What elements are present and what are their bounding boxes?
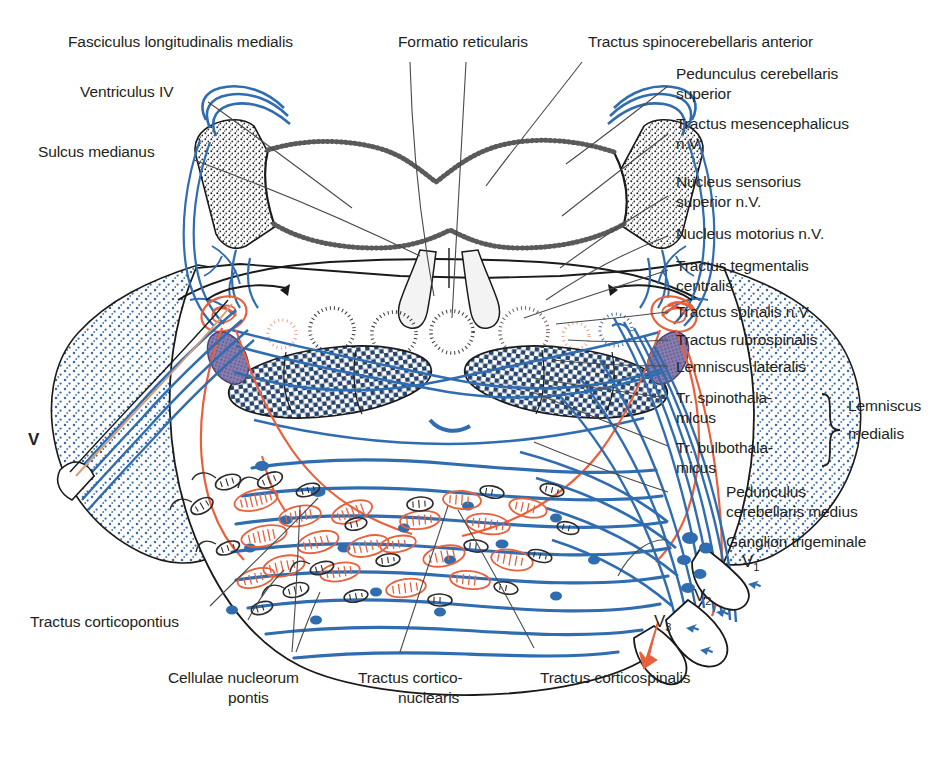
label-tractus-mesencephalicus-nv-l2: n.V. bbox=[676, 134, 702, 153]
v1-base: V bbox=[742, 552, 753, 571]
label-cellulae-nucleorum-pontis-l1: Cellulae nucleorum bbox=[168, 668, 299, 687]
label-tractus-tegmentalis-centralis-l1: Tractus tegmentalis bbox=[676, 256, 809, 275]
label-tractus-mesencephalicus-nv-l1: Tractus mesencephalicus bbox=[676, 114, 849, 133]
label-tr-spinothalamicus-l1: Tr. spinothala- bbox=[676, 388, 772, 407]
label-formatio-reticularis: Formatio reticularis bbox=[398, 32, 528, 51]
label-lemniscus-medialis-l2: medialis bbox=[848, 424, 904, 443]
label-pedunculus-cerebellaris-superior-l1: Pedunculus cerebellaris bbox=[676, 64, 838, 83]
label-tr-bulbothalamicus-l2: micus bbox=[676, 458, 716, 477]
label-v2: V2 bbox=[694, 586, 711, 607]
label-tractus-corticonuclearis-l2: nuclearis bbox=[398, 688, 459, 707]
label-tractus-corticonuclearis-l1: Tractus cortico- bbox=[358, 668, 463, 687]
label-pedunculus-cerebellaris-medius-l2: cerebellaris medius bbox=[726, 502, 858, 521]
label-tr-spinothalamicus-l2: mlcus bbox=[676, 408, 716, 427]
label-tractus-corticospinalis: Tractus corticospinalis bbox=[540, 668, 690, 687]
label-tractus-rubrospinalis: Tractus rubrospinalis bbox=[676, 330, 817, 349]
v3-base: V bbox=[654, 612, 665, 631]
label-tractus-spinalis-nv: Tractus spinalis n.V. bbox=[676, 302, 811, 321]
label-ventriculus-iv: Ventriculus IV bbox=[80, 82, 173, 101]
label-fasciculus-longitudinalis-medialis: Fasciculus longitudinalis medialis bbox=[68, 32, 293, 51]
label-tr-bulbothalamicus-l1: Tr. bulbothala- bbox=[676, 438, 773, 457]
v2-sub: 2 bbox=[705, 595, 711, 607]
label-tractus-corticopontius: Tractus corticopontius bbox=[30, 612, 179, 631]
label-ganglion-trigeminale: Ganglion trigeminale bbox=[726, 532, 866, 551]
label-tractus-spinocerebellaris-anterior: Tractus spinocerebellaris anterior bbox=[588, 32, 813, 51]
label-lemniscus-lateralis: Lemniscus lateralis bbox=[676, 357, 806, 376]
label-cellulae-nucleorum-pontis-l2: pontis bbox=[228, 688, 269, 707]
label-pedunculus-cerebellaris-superior-l2: superior bbox=[676, 84, 731, 103]
label-lemniscus-medialis-l1: Lemniscus bbox=[848, 396, 921, 415]
label-tractus-tegmentalis-centralis-l2: centralis bbox=[676, 276, 733, 295]
label-nucleus-sensorius-superior-nv-l1: Nucleus sensorius bbox=[676, 172, 801, 191]
label-v-root: V bbox=[28, 430, 39, 450]
label-v1: V1 bbox=[742, 552, 759, 573]
label-pedunculus-cerebellaris-medius-l1: Pedunculus bbox=[726, 482, 806, 501]
v1-sub: 1 bbox=[753, 561, 759, 573]
pons-cross-section-figure: Fasciculus longitudinalis medialis Forma… bbox=[0, 0, 949, 759]
label-nucleus-sensorius-superior-nv-l2: superior n.V. bbox=[676, 192, 761, 211]
v3-sub: 3 bbox=[665, 621, 671, 633]
label-v3: V3 bbox=[654, 612, 671, 633]
label-sulcus-medianus: Sulcus medianus bbox=[38, 142, 155, 161]
label-nucleus-motorius-nv: Nucleus motorius n.V. bbox=[676, 224, 824, 243]
v2-base: V bbox=[694, 586, 705, 605]
